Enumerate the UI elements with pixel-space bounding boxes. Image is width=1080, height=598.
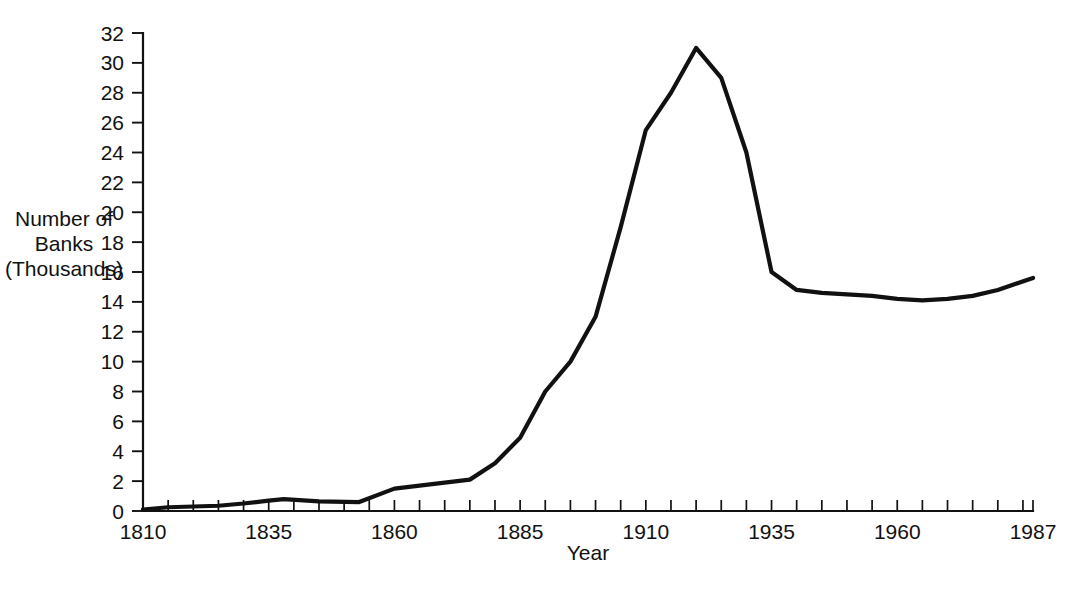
y-axis-title-line-2: Banks	[35, 232, 93, 255]
x-tick-label: 1885	[497, 520, 544, 543]
y-tick-label: 4	[112, 440, 124, 463]
y-axis-title-line-3: (Thousands)	[5, 257, 123, 280]
y-tick-label: 8	[112, 380, 124, 403]
y-tick-label: 28	[101, 81, 124, 104]
x-tick-label: 1810	[120, 520, 167, 543]
chart-container: 02468101214161820222426283032 1810183518…	[0, 0, 1080, 598]
y-tick-label: 32	[101, 22, 124, 45]
x-tick-label: 1987	[1010, 520, 1057, 543]
data-series-line	[143, 48, 1033, 510]
line-chart: 02468101214161820222426283032 1810183518…	[0, 0, 1080, 598]
x-axis-title: Year	[567, 541, 609, 564]
x-tick-label: 1935	[748, 520, 795, 543]
y-tick-label: 18	[101, 231, 124, 254]
x-tick-label: 1910	[622, 520, 669, 543]
y-axis-title-line-1: Number of	[15, 207, 113, 230]
y-tick-label: 14	[101, 290, 125, 313]
y-tick-label: 2	[112, 470, 124, 493]
y-tick-label: 24	[101, 141, 125, 164]
y-tick-label: 22	[101, 171, 124, 194]
x-tick-label: 1960	[874, 520, 921, 543]
x-tick-label: 1835	[245, 520, 292, 543]
y-tick-label: 26	[101, 111, 124, 134]
y-tick-label: 6	[112, 410, 124, 433]
x-axis-tick-labels: 18101835186018851910193519601987	[120, 520, 1057, 543]
y-axis-ticks	[132, 33, 143, 511]
y-tick-label: 30	[101, 51, 124, 74]
y-tick-label: 12	[101, 320, 124, 343]
y-tick-label: 10	[101, 350, 124, 373]
x-tick-label: 1860	[371, 520, 418, 543]
